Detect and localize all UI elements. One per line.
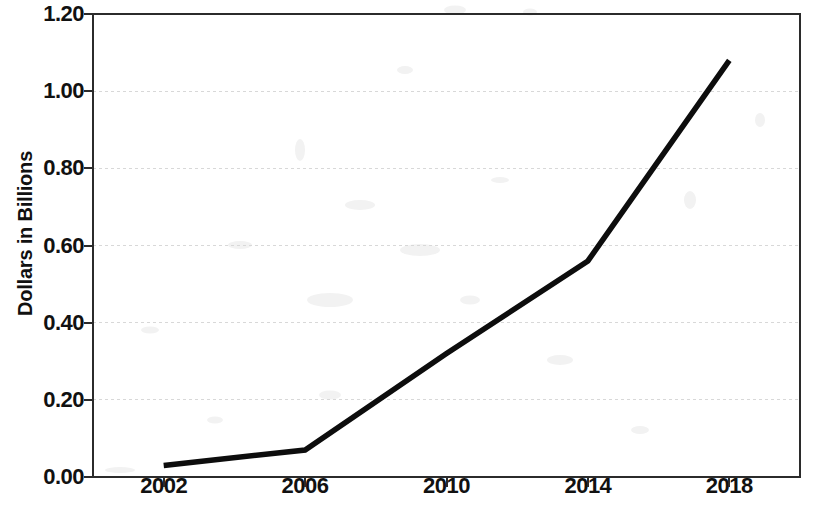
line-chart: Dollars in Billions 0.000.200.400.600.80… [0,0,814,514]
plot-area [0,0,814,514]
data-series-line [164,60,730,465]
scan-speckles [105,6,765,474]
